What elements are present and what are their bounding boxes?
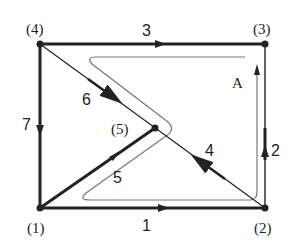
edge-1-arrow-icon <box>158 204 169 212</box>
edge-5-label: 5 <box>113 169 122 186</box>
edge-4-arrow <box>200 161 225 179</box>
node-2-label: (2) <box>254 220 272 237</box>
node-5-label: (5) <box>111 121 129 138</box>
node-2 <box>262 205 269 212</box>
edge-2-arrow-icon <box>261 145 269 157</box>
edge-1-label: 1 <box>142 217 151 234</box>
node-4 <box>37 41 44 48</box>
loop-a-arrow-icon <box>254 64 260 75</box>
edge-7-label: 7 <box>22 116 31 133</box>
node-1-label: (1) <box>27 220 45 237</box>
edge-7-arrow-icon <box>36 125 44 136</box>
edge-6-label: 6 <box>82 91 91 108</box>
edge-6-arrow <box>88 79 113 97</box>
graph-diagram: (4) (3) (1) (2) (5) 3 7 1 2 6 5 4 A <box>0 0 298 250</box>
node-1 <box>37 205 44 212</box>
edge-3-arrow-icon <box>155 40 166 48</box>
edge-3-label: 3 <box>142 22 151 39</box>
edge-4-label: 4 <box>205 142 214 159</box>
edge-5-line <box>40 128 155 208</box>
edge-2-label: 2 <box>271 142 280 159</box>
loop-a-label: A <box>232 75 243 91</box>
loop-a-path <box>83 57 257 200</box>
node-4-label: (4) <box>26 21 44 38</box>
node-3 <box>262 41 269 48</box>
node-5 <box>152 125 159 132</box>
node-3-label: (3) <box>253 21 271 38</box>
